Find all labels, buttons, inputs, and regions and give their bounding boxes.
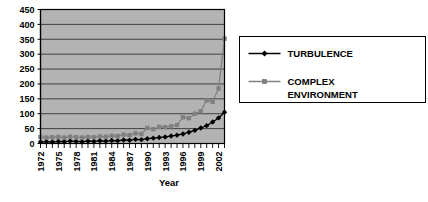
data-point-marker bbox=[187, 116, 191, 120]
data-point-marker bbox=[199, 109, 203, 113]
x-axis-tick-label: 1999 bbox=[196, 152, 206, 172]
data-point-marker bbox=[62, 135, 66, 139]
data-point-marker bbox=[74, 135, 78, 139]
data-point-marker bbox=[104, 134, 108, 138]
data-point-marker bbox=[210, 100, 214, 104]
data-point-marker bbox=[175, 123, 179, 127]
data-point-marker bbox=[127, 133, 131, 137]
data-point-marker bbox=[169, 124, 173, 128]
data-point-marker bbox=[151, 127, 155, 131]
x-axis-tick-label: 1993 bbox=[161, 152, 171, 172]
legend-marker-square-icon bbox=[262, 79, 267, 84]
data-point-marker bbox=[68, 134, 72, 138]
x-axis: 1972197519781981198419871990199319961999… bbox=[36, 144, 225, 172]
data-point-marker bbox=[92, 135, 96, 139]
x-axis-tick-label: 1978 bbox=[72, 152, 82, 172]
x-axis-tick-label: 1972 bbox=[36, 152, 46, 172]
legend-label: COMPLEX bbox=[288, 76, 336, 87]
chart-figure: 0501001502002503003504004501972197519781… bbox=[0, 0, 428, 202]
line-chart: 0501001502002503003504004501972197519781… bbox=[0, 0, 428, 202]
data-point-marker bbox=[50, 135, 54, 139]
data-point-marker bbox=[145, 126, 149, 130]
data-point-marker bbox=[98, 134, 102, 138]
data-point-marker bbox=[56, 135, 60, 139]
data-point-marker bbox=[80, 135, 84, 139]
data-point-marker bbox=[44, 135, 48, 139]
data-point-marker bbox=[157, 125, 161, 129]
y-axis-tick-label: 300 bbox=[19, 49, 34, 59]
x-axis-tick-label: 1990 bbox=[143, 152, 153, 172]
y-axis-tick-label: 0 bbox=[29, 139, 34, 149]
y-axis-tick-label: 100 bbox=[19, 109, 34, 119]
x-axis-tick-label: 2002 bbox=[214, 152, 224, 172]
y-axis-tick-label: 200 bbox=[19, 79, 34, 89]
x-axis-tick-label: 1987 bbox=[125, 152, 135, 172]
data-point-marker bbox=[205, 98, 209, 102]
y-axis-tick-label: 450 bbox=[19, 5, 34, 15]
data-point-marker bbox=[115, 134, 119, 138]
data-point-marker bbox=[193, 112, 197, 116]
y-axis-tick-label: 50 bbox=[24, 124, 34, 134]
data-point-marker bbox=[86, 135, 90, 139]
y-axis: 050100150200250300350400450 bbox=[19, 5, 40, 149]
x-axis-tick-label: 1981 bbox=[89, 152, 99, 172]
legend: TURBULENCECOMPLEXENVIRONMENT bbox=[240, 37, 426, 103]
y-axis-tick-label: 250 bbox=[19, 64, 34, 74]
data-point-marker bbox=[121, 132, 125, 136]
data-point-marker bbox=[133, 131, 137, 135]
data-point-marker bbox=[216, 86, 220, 90]
x-axis-tick-label: 1975 bbox=[54, 152, 64, 172]
legend-label: TURBULENCE bbox=[288, 48, 353, 59]
x-axis-tick-label: 1984 bbox=[107, 152, 117, 172]
y-axis-tick-label: 400 bbox=[19, 20, 34, 30]
data-point-marker bbox=[139, 132, 143, 136]
y-axis-tick-label: 150 bbox=[19, 94, 34, 104]
data-point-marker bbox=[110, 134, 114, 138]
plot-background bbox=[41, 10, 225, 144]
data-point-marker bbox=[163, 125, 167, 129]
data-point-marker bbox=[181, 115, 185, 119]
x-axis-tick-label: 1996 bbox=[178, 152, 188, 172]
x-axis-title: Year bbox=[159, 177, 179, 188]
y-axis-tick-label: 350 bbox=[19, 35, 34, 45]
legend-label-line2: ENVIRONMENT bbox=[288, 89, 358, 100]
